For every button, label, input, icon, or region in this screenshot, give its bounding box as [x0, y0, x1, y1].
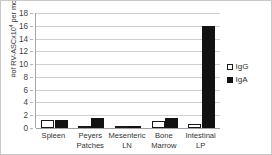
y-tick-mark — [30, 39, 33, 40]
legend-item-label: IgA — [236, 75, 248, 84]
y-tick-label: 10 — [19, 60, 28, 69]
bar-igg-spleen[interactable] — [41, 120, 54, 128]
y-tick-mark — [30, 115, 33, 116]
plot-area — [35, 13, 219, 128]
chart-legend: IgGIgA — [227, 60, 269, 86]
y-tick-label: 16 — [19, 21, 28, 30]
y-tick-label: 2 — [23, 111, 28, 120]
bar-igg-mesenteric-ln[interactable] — [115, 126, 128, 128]
bar-group — [152, 13, 179, 128]
open-square-icon — [227, 64, 233, 70]
x-category-label-line: LP — [179, 141, 222, 151]
bar-group — [115, 13, 142, 128]
x-axis-category-labels: SpleenPeyersPatchesMesentericLNBoneMarro… — [35, 131, 219, 155]
bar-iga-bone-marrow[interactable] — [165, 118, 178, 128]
y-tick-mark — [30, 51, 33, 52]
y-tick-label: 0 — [23, 124, 28, 133]
bar-iga-peyers-patches[interactable] — [91, 118, 104, 128]
bar-iga-mesenteric-ln[interactable] — [128, 126, 141, 128]
bar-chart-figure: #of RV-ASCx104 per mouse 024681012141618… — [0, 0, 272, 155]
legend-item-iga[interactable]: IgA — [227, 73, 269, 86]
bar-igg-intestinal-lp[interactable] — [188, 124, 201, 128]
y-tick-label: 14 — [19, 34, 28, 43]
bar-group — [188, 13, 215, 128]
y-tick-mark — [30, 64, 33, 65]
y-axis-tick-labels: 024681012141618 — [13, 13, 33, 128]
bar-group — [41, 13, 68, 128]
bar-iga-intestinal-lp[interactable] — [202, 26, 215, 128]
y-tick-mark — [30, 102, 33, 103]
bar-iga-spleen[interactable] — [55, 120, 68, 128]
x-category-label-line: Intestinal — [179, 131, 222, 141]
y-tick-mark — [30, 90, 33, 91]
y-tick-mark — [30, 13, 33, 14]
x-category-label: IntestinalLP — [179, 131, 222, 150]
y-tick-label: 8 — [23, 72, 28, 81]
y-tick-mark — [30, 77, 33, 78]
y-tick-mark — [30, 128, 33, 129]
y-tick-mark — [30, 26, 33, 27]
y-tick-label: 18 — [19, 9, 28, 18]
filled-square-icon — [227, 77, 233, 83]
bar-igg-peyers-patches[interactable] — [78, 126, 91, 128]
bar-group — [78, 13, 105, 128]
legend-item-label: IgG — [236, 62, 249, 71]
y-tick-label: 4 — [23, 98, 28, 107]
y-tick-label: 12 — [19, 47, 28, 56]
bar-igg-bone-marrow[interactable] — [152, 121, 165, 128]
x-axis-baseline — [36, 128, 220, 129]
y-tick-label: 6 — [23, 85, 28, 94]
bar-series-container — [36, 13, 220, 128]
legend-item-igg[interactable]: IgG — [227, 60, 269, 73]
